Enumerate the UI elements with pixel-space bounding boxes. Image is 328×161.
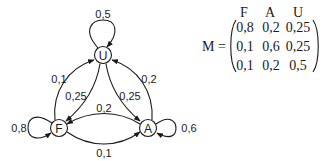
edge-a-a-label: 0,6 (181, 122, 196, 134)
matrix-col-header-u: U (293, 5, 303, 20)
matrix-col-header-f: F (240, 5, 248, 20)
matrix-name: M = (202, 39, 226, 54)
matrix-cell-1-0: 0,1 (236, 39, 254, 54)
edge-a-a (156, 119, 176, 136)
edge-f-f (28, 117, 52, 138)
matrix-col-header-a: A (265, 5, 276, 20)
edge-u-a-label: 0,25 (119, 90, 140, 102)
matrix-cell-1-1: 0,6 (262, 39, 280, 54)
edge-u-u (90, 20, 115, 48)
edge-f-a-label: 0,1 (96, 147, 111, 159)
node-u-label: U (99, 49, 108, 63)
edge-a-f (67, 114, 140, 125)
matrix-cell-0-0: 0,8 (236, 20, 254, 35)
markov-chain-figure: U F A 0,5 0,8 0,6 0,1 0,25 0,25 0,2 0,2 … (0, 0, 328, 161)
matrix-right-paren (313, 20, 318, 72)
matrix-cell-2-2: 0,5 (289, 58, 307, 73)
matrix-cell-2-0: 0,1 (236, 58, 254, 73)
node-u: U (95, 47, 112, 64)
transition-matrix: F A U M = 0,8 0,2 0,25 0,1 0,6 0,25 0,1 … (202, 5, 318, 73)
edge-u-u-label: 0,5 (95, 8, 110, 20)
node-a: A (140, 120, 157, 137)
edge-a-u-label: 0,2 (141, 73, 156, 85)
matrix-left-paren (231, 20, 236, 72)
node-f: F (51, 120, 68, 137)
matrix-cell-0-2: 0,25 (286, 20, 311, 35)
matrix-cell-0-1: 0,2 (262, 20, 280, 35)
edge-a-f-label: 0,2 (96, 102, 111, 114)
matrix-cell-1-2: 0,25 (286, 39, 311, 54)
matrix-cell-2-1: 0,2 (262, 58, 280, 73)
edge-f-f-label: 0,8 (11, 122, 26, 134)
node-a-label: A (144, 122, 152, 136)
edge-u-f-label: 0,25 (65, 90, 86, 102)
node-f-label: F (55, 122, 62, 136)
edge-f-u-label: 0,1 (51, 73, 66, 85)
edge-f-a (67, 132, 140, 144)
